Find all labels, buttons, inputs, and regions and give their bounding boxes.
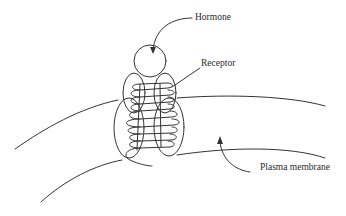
- plasma-membrane-label: Plasma membrane: [260, 163, 330, 173]
- hormone-molecule: [134, 45, 166, 77]
- diagram-drawing: [0, 0, 346, 216]
- receptor-upper-left-lobe: [123, 73, 145, 113]
- membrane-upper-right: [177, 96, 325, 106]
- membrane-lower-right: [177, 149, 325, 158]
- hormone-arrow: [150, 18, 192, 54]
- receptor-label: Receptor: [201, 59, 235, 69]
- membrane-lower-left: [41, 160, 122, 202]
- receptor: [114, 73, 184, 166]
- membrane-upper-left: [15, 100, 118, 149]
- receptor-pointer-line: [172, 68, 200, 87]
- receptor-helix: [126, 83, 179, 166]
- hormone-label: Hormone: [195, 13, 231, 23]
- plasma-membrane: [15, 96, 325, 202]
- receptor-lower-left-lobe: [114, 98, 144, 158]
- hormone-receptor-diagram: Hormone Receptor Plasma membrane: [0, 0, 346, 216]
- plasma-membrane-arrow: [217, 136, 250, 172]
- receptor-upper-right-lobe: [154, 73, 176, 113]
